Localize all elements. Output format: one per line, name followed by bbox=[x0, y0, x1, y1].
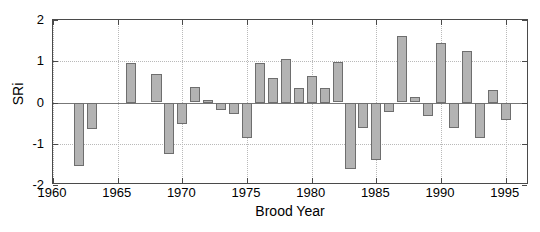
gridline-vertical bbox=[247, 20, 248, 183]
gridline-vertical bbox=[118, 20, 119, 183]
x-tick-label-1995: 1995 bbox=[475, 185, 535, 200]
x-tick-label-1965: 1965 bbox=[87, 185, 147, 200]
gridline-horizontal bbox=[53, 144, 527, 145]
bar-1980 bbox=[307, 76, 317, 103]
x-tick-label-1985: 1985 bbox=[345, 185, 405, 200]
y-tick-1 bbox=[522, 61, 527, 62]
bar-1994 bbox=[488, 90, 498, 102]
x-tick-1980 bbox=[312, 20, 313, 25]
x-tick-1995 bbox=[506, 20, 507, 25]
bar-1995 bbox=[501, 103, 511, 120]
x-tick-1965 bbox=[118, 20, 119, 25]
x-tick-1960 bbox=[53, 178, 54, 183]
x-tick-1985 bbox=[376, 20, 377, 25]
y-tick-0 bbox=[53, 103, 58, 104]
bar-1981 bbox=[320, 88, 330, 102]
y-tick-0 bbox=[522, 103, 527, 104]
bar-1986 bbox=[384, 103, 394, 112]
bar-1989 bbox=[423, 103, 433, 116]
bar-1982 bbox=[333, 62, 343, 102]
chart-figure: SRi Brood Year 1960196519701975198019851… bbox=[0, 0, 540, 232]
x-tick-label-1975: 1975 bbox=[216, 185, 276, 200]
bar-1978 bbox=[281, 59, 291, 102]
y-tick-2 bbox=[53, 20, 58, 21]
bar-1963 bbox=[87, 103, 97, 130]
gridline-vertical bbox=[506, 20, 507, 183]
x-tick-label-1980: 1980 bbox=[281, 185, 341, 200]
bar-1987 bbox=[397, 36, 407, 103]
bar-1975 bbox=[242, 103, 252, 138]
bar-1972 bbox=[203, 100, 213, 102]
bar-1991 bbox=[449, 103, 459, 129]
x-tick-1970 bbox=[182, 178, 183, 183]
bar-1970 bbox=[177, 103, 187, 124]
bar-1985 bbox=[371, 103, 381, 161]
bar-1973 bbox=[216, 103, 226, 110]
y-tick-label-1: 1 bbox=[0, 54, 44, 67]
bar-1974 bbox=[229, 103, 239, 115]
x-tick-1975 bbox=[247, 20, 248, 25]
gridline-vertical bbox=[53, 20, 54, 183]
bar-1969 bbox=[164, 103, 174, 155]
bar-1992 bbox=[462, 51, 472, 103]
bar-1988 bbox=[410, 97, 420, 103]
y-tick--1 bbox=[53, 144, 58, 145]
y-tick-label-0: 0 bbox=[0, 96, 44, 109]
bar-1962 bbox=[74, 103, 84, 167]
bar-1979 bbox=[294, 88, 304, 102]
bar-1968 bbox=[151, 74, 161, 102]
y-tick-label--2: -2 bbox=[0, 178, 44, 191]
y-tick-1 bbox=[53, 61, 58, 62]
bar-1983 bbox=[345, 103, 355, 169]
bar-1984 bbox=[358, 103, 368, 129]
x-tick-1995 bbox=[506, 178, 507, 183]
y-tick-label--1: -1 bbox=[0, 137, 44, 150]
bar-1971 bbox=[190, 87, 200, 102]
x-tick-1965 bbox=[118, 178, 119, 183]
x-tick-1990 bbox=[441, 178, 442, 183]
bar-1966 bbox=[126, 63, 136, 102]
bar-1976 bbox=[255, 63, 265, 102]
x-tick-1970 bbox=[182, 20, 183, 25]
bar-1993 bbox=[475, 103, 485, 138]
plot-inner bbox=[53, 20, 527, 183]
x-tick-1985 bbox=[376, 178, 377, 183]
bar-1977 bbox=[268, 78, 278, 103]
y-tick-2 bbox=[522, 20, 527, 21]
x-tick-1990 bbox=[441, 20, 442, 25]
gridline-vertical bbox=[182, 20, 183, 183]
bar-1990 bbox=[436, 43, 446, 103]
x-tick-label-1990: 1990 bbox=[410, 185, 470, 200]
y-tick--1 bbox=[522, 144, 527, 145]
x-tick-label-1970: 1970 bbox=[151, 185, 211, 200]
x-tick-1980 bbox=[312, 178, 313, 183]
y-tick-label-2: 2 bbox=[0, 13, 44, 26]
x-axis-label: Brood Year bbox=[52, 203, 528, 219]
plot-area bbox=[52, 19, 528, 184]
x-tick-1975 bbox=[247, 178, 248, 183]
